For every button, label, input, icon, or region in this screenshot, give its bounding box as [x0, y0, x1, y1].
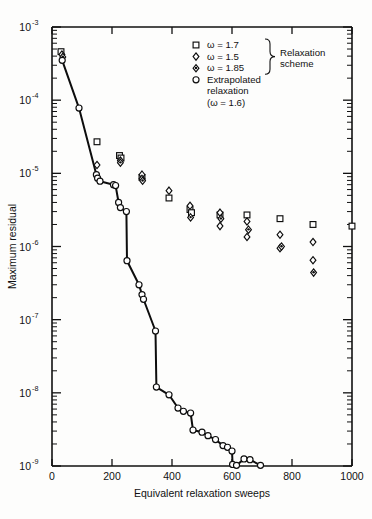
data-point: [257, 462, 263, 468]
data-point: [152, 328, 158, 334]
data-point: [117, 205, 123, 211]
data-point: [180, 408, 186, 414]
y-axis-title: Maximum residual: [6, 204, 18, 289]
data-point: [123, 209, 129, 215]
x-axis-title: Equivalent relaxation sweeps: [134, 487, 270, 499]
data-point: [94, 139, 100, 145]
svg-text:10: 10: [19, 21, 31, 33]
data-point: [310, 222, 316, 228]
svg-text:-7: -7: [32, 311, 38, 320]
x-tick-label: 400: [163, 470, 181, 482]
svg-text:10: 10: [19, 314, 31, 326]
x-tick-label: 1000: [340, 470, 364, 482]
data-point: [205, 433, 211, 439]
data-point: [229, 448, 235, 454]
svg-text:-5: -5: [32, 164, 38, 173]
data-point: [113, 183, 119, 189]
x-tick-label: 600: [223, 470, 241, 482]
svg-text:-3: -3: [32, 18, 38, 27]
svg-text:10: 10: [19, 94, 31, 106]
data-point: [166, 392, 172, 398]
data-point: [166, 195, 172, 201]
data-point: [199, 429, 205, 435]
legend-group-label-line1: Relaxation: [280, 47, 325, 58]
x-tick-label: 200: [103, 470, 121, 482]
svg-text:10: 10: [19, 167, 31, 179]
legend-marker: [193, 77, 199, 83]
residual-convergence-chart: 0200400600800100010-310-410-510-610-710-…: [0, 0, 372, 519]
data-point: [124, 258, 130, 264]
data-point: [349, 223, 355, 229]
data-point: [233, 462, 239, 468]
data-point: [241, 456, 247, 462]
x-tick-label: 800: [283, 470, 301, 482]
svg-text:-8: -8: [32, 384, 38, 393]
x-tick-label: 0: [49, 470, 55, 482]
svg-text:-9: -9: [32, 457, 38, 466]
legend-label-extrapolated-line3: (ω = 1.6): [207, 97, 245, 108]
svg-text:-4: -4: [32, 91, 38, 100]
data-point: [190, 427, 196, 433]
data-point: [277, 216, 283, 222]
data-point: [140, 296, 146, 302]
svg-text:10: 10: [19, 387, 31, 399]
data-point: [97, 178, 103, 184]
legend-label: ω = 1.5: [207, 51, 239, 62]
legend-label: Extrapolated: [207, 74, 261, 85]
data-point: [76, 105, 82, 111]
data-point: [188, 410, 194, 416]
svg-text:-6: -6: [32, 238, 38, 247]
data-point: [59, 57, 65, 63]
data-point: [153, 384, 159, 390]
legend-label-extrapolated-line2: relaxation: [207, 85, 249, 96]
data-point: [247, 457, 253, 463]
legend-label: ω = 1.7: [207, 39, 239, 50]
legend-group-label-line2: scheme: [280, 58, 314, 69]
svg-text:10: 10: [19, 460, 31, 472]
data-point: [212, 436, 218, 442]
figure-root: 0200400600800100010-310-410-510-610-710-…: [0, 0, 372, 519]
legend-label: ω = 1.85: [207, 62, 244, 73]
data-point: [136, 282, 142, 288]
legend-marker: [193, 42, 199, 48]
svg-text:10: 10: [19, 241, 31, 253]
